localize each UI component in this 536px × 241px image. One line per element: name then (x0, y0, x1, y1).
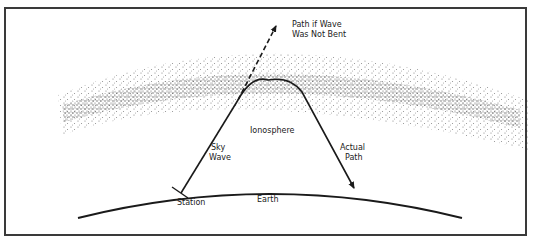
label-unbent-path-1: Path if Wave (292, 20, 342, 30)
station-marker (172, 187, 188, 198)
label-sky-wave-1: Sky (211, 143, 225, 153)
label-unbent-path-2: Was Not Bent (292, 30, 346, 40)
label-ionosphere: Ionosphere (250, 126, 295, 136)
label-actual-path-1: Actual (340, 143, 365, 153)
label-earth: Earth (257, 195, 278, 205)
label-station: Station (177, 198, 205, 208)
sky-wave-line (181, 100, 238, 193)
label-actual-path-2: Path (345, 153, 363, 163)
label-sky-wave-2: Wave (209, 153, 231, 163)
